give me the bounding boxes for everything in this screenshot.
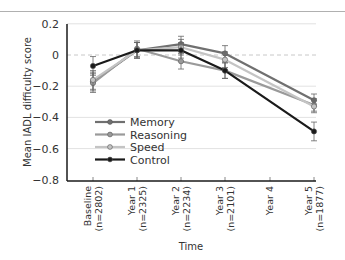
- svg-text:Year 1: Year 1: [126, 186, 137, 216]
- x-axis-title: Time: [178, 241, 203, 252]
- legend-label: Reasoning: [130, 129, 187, 142]
- y-axis-ticks: 0.20−0.2−0.4−0.6−0.8: [32, 18, 59, 187]
- y-tick-label: −0.4: [32, 111, 59, 124]
- svg-text:(n=1877): (n=1877): [314, 186, 325, 232]
- data-point: [222, 68, 227, 73]
- legend-item-speed: Speed: [95, 141, 164, 154]
- legend-item-reasoning: Reasoning: [95, 129, 187, 142]
- series-line: [93, 50, 314, 131]
- x-tick-label: Year 4: [264, 186, 275, 216]
- svg-text:(n=2325): (n=2325): [137, 186, 148, 232]
- x-axis-ticks: Baseline(n=2802)Year 1(n=2325)Year 2(n=2…: [82, 177, 325, 232]
- series-reasoning: [90, 41, 317, 111]
- x-tick-label: Baseline(n=2802): [82, 186, 104, 232]
- data-point: [178, 59, 183, 64]
- data-point: [134, 48, 139, 53]
- data-point: [178, 48, 183, 53]
- svg-text:Year 4: Year 4: [264, 186, 275, 216]
- legend-item-memory: Memory: [95, 116, 175, 129]
- data-point: [311, 104, 316, 109]
- svg-text:Baseline: Baseline: [82, 186, 93, 226]
- y-tick-label: −0.6: [32, 143, 59, 156]
- svg-text:Year 5: Year 5: [303, 186, 314, 216]
- legend-label: Speed: [130, 141, 164, 154]
- legend: MemoryReasoningSpeedControl: [95, 116, 187, 167]
- gridlines: [67, 24, 316, 149]
- x-tick-label: Year 5(n=1877): [303, 186, 325, 232]
- svg-text:Year 3: Year 3: [214, 186, 225, 216]
- series-speed: [90, 39, 317, 112]
- svg-text:(n=2234): (n=2234): [181, 186, 192, 232]
- y-tick-label: 0.2: [42, 18, 60, 31]
- y-axis-title: Mean IADL difficulty score: [22, 37, 33, 167]
- x-tick-label: Year 2(n=2234): [170, 186, 192, 232]
- x-tick-label: Year 3(n=2101): [214, 186, 236, 232]
- iadl-line-chart: 0.20−0.2−0.4−0.6−0.8 Baseline(n=2802)Yea…: [0, 0, 345, 260]
- data-point: [222, 57, 227, 62]
- svg-text:Year 2: Year 2: [170, 186, 181, 216]
- data-point: [90, 63, 95, 68]
- svg-text:(n=2802): (n=2802): [93, 186, 104, 232]
- y-tick-label: −0.2: [32, 80, 59, 93]
- y-tick-label: 0: [52, 49, 59, 62]
- legend-item-control: Control: [95, 154, 170, 167]
- data-series: [90, 36, 317, 141]
- svg-text:(n=2101): (n=2101): [225, 186, 236, 232]
- series-control: [90, 43, 317, 141]
- legend-label: Memory: [130, 116, 175, 129]
- x-tick-label: Year 1(n=2325): [126, 186, 148, 232]
- data-point: [90, 77, 95, 82]
- legend-label: Control: [130, 154, 170, 167]
- series-memory: [90, 36, 317, 106]
- data-point: [311, 129, 316, 134]
- y-tick-label: −0.8: [32, 174, 59, 187]
